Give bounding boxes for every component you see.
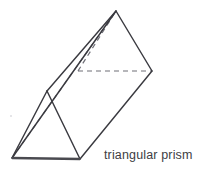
- figure-caption: triangular prism: [104, 148, 193, 163]
- figure-canvas: triangular prism: [0, 0, 199, 177]
- edge-near-face-base: [12, 158, 80, 159]
